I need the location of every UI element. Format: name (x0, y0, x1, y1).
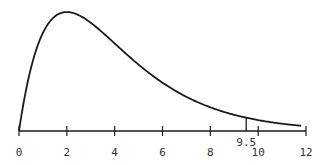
x-tick-label: 6 (159, 146, 166, 159)
chi-square-density-chart: 024681012 9.5 (0, 0, 321, 165)
x-tick-label: 8 (207, 146, 214, 159)
critical-value-label: 9.5 (236, 136, 256, 149)
x-tick-label: 2 (64, 146, 71, 159)
x-tick-label: 0 (16, 146, 23, 159)
x-tick-label: 4 (111, 146, 118, 159)
x-tick-label: 12 (299, 146, 312, 159)
density-curve (19, 12, 301, 131)
